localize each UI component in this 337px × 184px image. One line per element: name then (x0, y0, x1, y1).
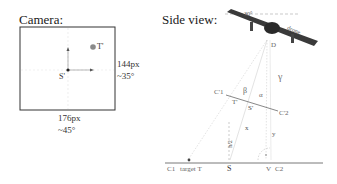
drone-leg-right (291, 34, 294, 43)
label-t-prime-side: T' (232, 99, 238, 106)
angle-beta: β (243, 87, 247, 95)
label-s-prime: S' (59, 73, 65, 81)
label-c2: C2 (275, 166, 283, 173)
drone-hub (264, 22, 280, 34)
label-s-prime-side: S' (248, 105, 253, 112)
label-c1: C1 (167, 166, 175, 173)
segment-x: x (245, 125, 249, 132)
right-angle-dot (265, 154, 267, 156)
camera-width-px: 176px (58, 114, 81, 123)
label-s: S (227, 165, 231, 173)
target-point-t (188, 159, 191, 162)
camera-width-angle: ~45° (58, 126, 75, 135)
label-v: V (266, 166, 271, 173)
label-t-prime: T' (97, 43, 103, 51)
target-point-t-prime (90, 44, 96, 50)
side-view-panel-title: Side view: (162, 13, 217, 26)
label-target-t: target T (180, 166, 202, 173)
right-angle-arc (258, 148, 270, 160)
label-d: D (271, 42, 276, 49)
camera-height-px: 144px (117, 60, 140, 69)
angle-alpha: α (259, 92, 263, 99)
vertical-ray-d-v (270, 40, 271, 160)
segment-h: h/2 (227, 140, 233, 148)
segment-y: y (272, 131, 276, 138)
camera-height-angle: ~35° (117, 72, 134, 81)
label-c2-prime: C'2 (279, 110, 288, 117)
fov-ray-c2 (266, 40, 267, 160)
tilt-angle-label: 30° (244, 11, 252, 17)
angle-gamma: γ (278, 72, 282, 82)
label-c1-prime: C'1 (214, 89, 223, 96)
drone-leg-left (250, 22, 253, 31)
center-point-s-prime (66, 68, 69, 71)
